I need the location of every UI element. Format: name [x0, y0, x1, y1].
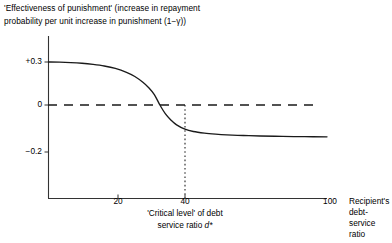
x-axis-title: Recipient's debt-service ratio — [349, 196, 392, 240]
critical-level-symbol: d* — [205, 220, 213, 230]
x-axis-label-40: 40 — [172, 197, 198, 206]
effectiveness-curve — [49, 62, 328, 137]
x-axis-label-20: 20 — [105, 197, 131, 206]
y-axis-label-minus-02: −0.2 — [14, 147, 42, 156]
critical-annotation-line-1: 'Critical level' of debt — [147, 208, 223, 218]
y-axis-label-plus-03: +0.3 — [14, 57, 42, 66]
plot-area — [0, 0, 392, 243]
critical-annotation-line-2-prefix: service ratio — [158, 220, 205, 230]
chart-figure: 'Effectiveness of punishment' (increase … — [0, 0, 392, 243]
critical-level-annotation: 'Critical level' of debtservice ratio d* — [112, 208, 258, 231]
x-axis-label-100: 100 — [317, 197, 343, 206]
y-axis-label-zero: 0 — [14, 100, 42, 109]
